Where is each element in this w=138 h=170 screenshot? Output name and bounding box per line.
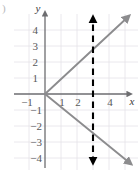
y-tick-label--2: −2	[30, 120, 42, 132]
x-axis-label: x	[129, 95, 135, 107]
y-tick-label-4: 4	[33, 24, 39, 36]
y-tick-label--3: −3	[30, 136, 42, 148]
figure-background	[0, 0, 138, 170]
x-tick-label-4: 4	[107, 96, 113, 108]
y-tick-label--4: −4	[30, 152, 42, 164]
x-tick-label-2: 2	[75, 96, 81, 108]
x-tick-label-1: 1	[59, 96, 65, 108]
y-tick-label-3: 3	[33, 40, 39, 52]
problem-label: )	[2, 2, 6, 15]
coordinate-plane-svg: y x −1 1 2 4 4 3 2 1 −1 −2 −3 −4 )	[0, 0, 138, 170]
graph-figure: y x −1 1 2 4 4 3 2 1 −1 −2 −3 −4 )	[0, 0, 138, 170]
y-tick-label-1: 1	[33, 72, 39, 84]
y-tick-label-2: 2	[33, 56, 39, 68]
y-axis-label: y	[35, 2, 41, 14]
y-tick-label--1: −1	[30, 104, 42, 116]
